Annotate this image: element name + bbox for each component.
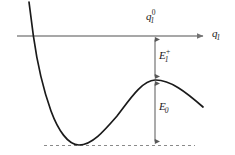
well-depth-label: E0 (159, 101, 169, 112)
equilibrium-coordinate-superscript: 0 (152, 8, 156, 17)
q1-axis-label-subscript: 1 (217, 33, 221, 42)
potential-energy-figure: q10 q1 E1+ E0 (0, 0, 235, 155)
potential-energy-curve (29, 2, 203, 145)
q1-axis-label: q1 (212, 28, 221, 39)
barrier-energy-label: E1+ (159, 50, 174, 61)
well-depth-subscript: 0 (165, 106, 169, 115)
barrier-energy-superscript: + (166, 47, 170, 56)
figure-canvas (0, 0, 235, 155)
equilibrium-coordinate-label: q10 (146, 11, 159, 22)
